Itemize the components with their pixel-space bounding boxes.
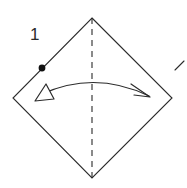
fold-arrow-head-left-icon xyxy=(35,84,54,101)
fold-arrow-head-right-icon xyxy=(131,84,150,97)
adjacent-figure-edge-stroke xyxy=(175,61,184,70)
origami-figure-svg: 1 xyxy=(0,0,187,188)
step-number-label: 1 xyxy=(30,25,39,44)
corner-reference-dot xyxy=(39,65,46,72)
origami-step-diagram: 1 xyxy=(0,0,187,188)
fold-arrow-arc xyxy=(42,82,149,96)
